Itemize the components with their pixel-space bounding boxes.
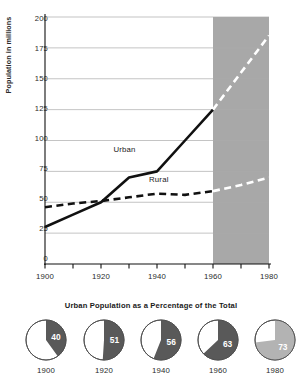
- pie-chart-1980: 731980: [249, 318, 301, 384]
- pie-year-label: 1940: [135, 366, 187, 375]
- pie-value-label: 73: [278, 342, 288, 352]
- pie-year-label: 1980: [249, 366, 301, 375]
- pie-chart-1940: 561940: [135, 318, 187, 384]
- pie-year-label: 1900: [20, 366, 72, 375]
- pie-slice-graphic: 63: [196, 318, 240, 362]
- pie-chart-1900: 401900: [20, 318, 72, 384]
- population-figure: Population in millions 200 175 150 125 1…: [0, 0, 302, 389]
- pie-chart-1960: 631960: [192, 318, 244, 384]
- line-plot-area: [0, 0, 302, 292]
- pie-value-label: 40: [51, 332, 61, 342]
- pie-year-label: 1920: [78, 366, 130, 375]
- x-axis-ticks: [45, 264, 269, 269]
- pie-group-title: Urban Population as a Percentage of the …: [0, 301, 302, 310]
- pie-slice-graphic: 73: [253, 318, 297, 362]
- pie-value-label: 51: [110, 335, 120, 345]
- pie-slice-graphic: 51: [82, 318, 126, 362]
- pie-value-label: 63: [223, 339, 233, 349]
- pie-year-label: 1960: [192, 366, 244, 375]
- pie-chart-group: Urban Population as a Percentage of the …: [0, 292, 302, 389]
- pie-chart-1920: 511920: [78, 318, 130, 384]
- pie-slice-graphic: 56: [139, 318, 183, 362]
- pie-slice-graphic: 40: [24, 318, 68, 362]
- line-chart: Population in millions 200 175 150 125 1…: [0, 0, 302, 292]
- pie-value-label: 56: [167, 337, 177, 347]
